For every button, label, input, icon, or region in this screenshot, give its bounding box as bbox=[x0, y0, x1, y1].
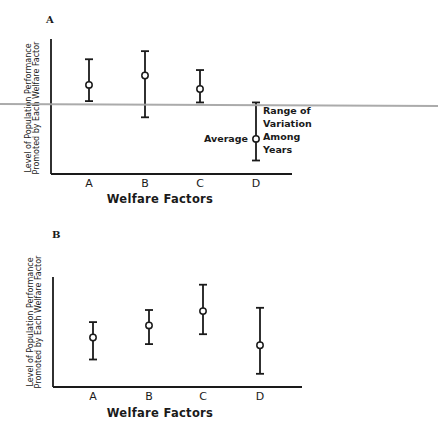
x-axis-title: Welfare Factors bbox=[107, 192, 213, 206]
x-axis-title: Welfare Factors bbox=[107, 406, 213, 420]
x-tick-label: A bbox=[85, 177, 93, 190]
x-tick-label: B bbox=[141, 177, 149, 190]
error-bar bbox=[252, 102, 260, 160]
mean-marker bbox=[86, 82, 92, 88]
panel-label: B bbox=[52, 229, 60, 240]
panel-label: A bbox=[45, 14, 54, 25]
mean-marker bbox=[90, 334, 96, 340]
mean-marker bbox=[257, 342, 263, 348]
x-tick-label: B bbox=[145, 390, 153, 403]
mean-marker bbox=[146, 322, 152, 328]
annotation-range: Range ofVariationAmongYears bbox=[262, 105, 312, 155]
error-bar bbox=[196, 70, 204, 102]
x-tick-label: C bbox=[196, 177, 204, 190]
x-tick-label: C bbox=[199, 390, 207, 403]
error-bar bbox=[89, 322, 97, 359]
mean-marker bbox=[200, 308, 206, 314]
chart-panel-a: ALevel of Population PerformancePromoted… bbox=[24, 14, 312, 206]
mean-marker bbox=[253, 136, 259, 142]
mean-marker bbox=[142, 72, 148, 78]
error-bar bbox=[141, 51, 149, 117]
error-bar bbox=[256, 308, 264, 374]
y-axis-label: Promoted by Each Welfare Factor bbox=[32, 41, 41, 174]
y-axis-label: Promoted by Each Welfare Factor bbox=[34, 255, 43, 388]
mean-marker bbox=[197, 86, 203, 92]
x-tick-label: A bbox=[89, 390, 97, 403]
figure: ALevel of Population PerformancePromoted… bbox=[0, 0, 438, 424]
error-bar bbox=[199, 285, 207, 335]
error-bar bbox=[145, 310, 153, 344]
x-tick-label: D bbox=[256, 390, 264, 403]
annotation-average: Average bbox=[204, 133, 248, 144]
chart-panel-b: BLevel of Population PerformancePromoted… bbox=[26, 229, 302, 420]
scan-line-artifact bbox=[0, 104, 438, 106]
x-tick-label: D bbox=[252, 177, 260, 190]
error-bar bbox=[85, 59, 93, 101]
